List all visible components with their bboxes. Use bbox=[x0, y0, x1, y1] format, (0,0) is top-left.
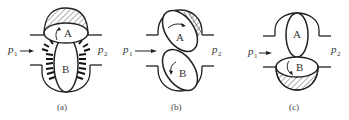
caption-b: (b) bbox=[171, 102, 182, 112]
panel-a: A B p 1 p 2 (a) bbox=[7, 8, 108, 112]
outlet-pressure-label-b: p bbox=[211, 43, 218, 55]
svg-text:1: 1 bbox=[254, 52, 258, 60]
outlet-pressure-label-c: p bbox=[330, 43, 337, 55]
caption-c: (c) bbox=[289, 102, 299, 112]
roots-blower-diagram: A B p 1 p 2 (a) A B bbox=[0, 0, 349, 120]
rotor-label-c-top: A bbox=[293, 28, 301, 40]
caption-a: (a) bbox=[57, 102, 67, 112]
svg-text:2: 2 bbox=[104, 50, 108, 58]
rotor-label-a-top: A bbox=[64, 27, 72, 39]
outlet-pressure-label-a: p bbox=[97, 43, 104, 55]
svg-text:2: 2 bbox=[218, 50, 222, 58]
svg-text:1: 1 bbox=[129, 50, 133, 58]
rotor-label-b-top: A bbox=[176, 31, 184, 43]
rotor-label-a-bottom: B bbox=[62, 63, 69, 75]
panel-c: A B p 1 p 2 (c) bbox=[247, 13, 341, 112]
inlet-pressure-label-c: p bbox=[247, 45, 254, 57]
inlet-pressure-label-a: p bbox=[7, 43, 14, 55]
inlet-pressure-label-b: p bbox=[122, 43, 129, 55]
rotor-label-b-bottom: B bbox=[179, 67, 186, 79]
svg-text:2: 2 bbox=[337, 50, 341, 58]
rotor-label-c-bottom: B bbox=[296, 61, 303, 73]
panel-b: A B p 1 p 2 (b) bbox=[122, 4, 222, 112]
svg-text:1: 1 bbox=[14, 50, 18, 58]
